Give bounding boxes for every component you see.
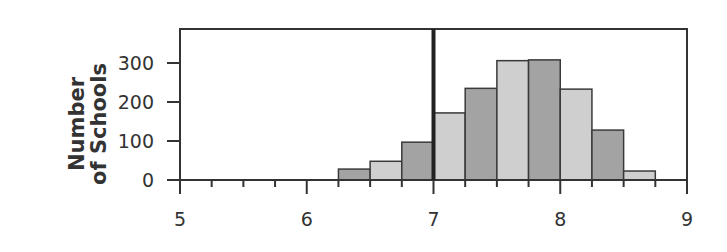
histogram-bar — [465, 88, 497, 180]
histogram-chart: 010020030056789 — [0, 0, 727, 252]
histogram-bar — [624, 171, 656, 180]
y-tick-label: 200 — [118, 91, 154, 113]
x-tick-label: 5 — [174, 208, 186, 230]
x-tick-label: 7 — [427, 208, 439, 230]
y-tick-label: 300 — [118, 52, 154, 74]
histogram-bar — [592, 130, 624, 180]
histogram-bar — [402, 142, 434, 180]
histogram-bar — [497, 61, 529, 180]
x-tick-label: 6 — [301, 208, 313, 230]
histogram-bar — [560, 89, 592, 180]
histogram-bar — [529, 60, 561, 180]
histogram-bar — [338, 169, 370, 180]
histogram-bar — [434, 113, 466, 180]
y-tick-label: 0 — [142, 169, 154, 191]
x-tick-label: 8 — [554, 208, 566, 230]
x-tick-label: 9 — [681, 208, 693, 230]
histogram-bar — [370, 161, 402, 180]
y-tick-label: 100 — [118, 130, 154, 152]
